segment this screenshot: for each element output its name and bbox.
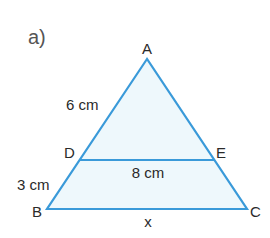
measure-bc: x: [144, 213, 152, 230]
vertex-label-c: C: [250, 203, 261, 220]
measure-ad: 6 cm: [66, 96, 99, 113]
vertex-label-e: E: [216, 144, 226, 161]
measure-db: 3 cm: [17, 176, 50, 193]
vertex-label-d: D: [64, 144, 75, 161]
part-label: a): [28, 26, 46, 48]
vertex-label-b: B: [32, 203, 42, 220]
triangle-abc: [47, 59, 247, 209]
similar-triangles-diagram: a) A D E B C 6 cm 3 cm 8 cm x: [0, 0, 270, 238]
vertex-label-a: A: [142, 40, 152, 57]
measure-de: 8 cm: [132, 164, 165, 181]
